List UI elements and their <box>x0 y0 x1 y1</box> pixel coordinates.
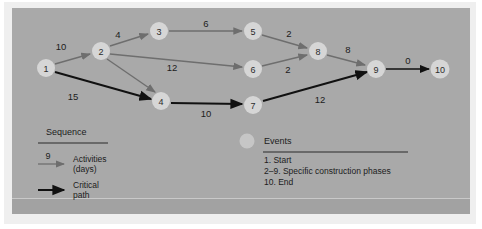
legend-critical-label-line2: path <box>73 190 90 200</box>
edge-label-3-5: 6 <box>203 18 208 29</box>
diagram-root: 1 2 3 4 5 6 7 8 9 10 10 15 4 12 6 10 2 2… <box>0 0 482 229</box>
legend-sequence-title: Sequence <box>46 127 87 137</box>
node-10-label: 10 <box>435 65 445 75</box>
edge-8-9 <box>327 55 365 65</box>
edge-label-2-3: 4 <box>115 29 120 40</box>
edge-5-8 <box>262 35 307 48</box>
event-node-icon <box>240 134 255 149</box>
edge-label-1-2: 10 <box>56 41 67 52</box>
node-9-label: 9 <box>373 65 378 75</box>
legend-activities-label-line1: Activities <box>73 154 107 164</box>
legend-events-item-3: 10. End <box>264 177 294 187</box>
legend-events-item-1: 1. Start <box>264 155 292 165</box>
edge-1-2 <box>55 54 90 64</box>
legend-events: Events 1. Start 2–9. Specific constructi… <box>240 134 409 188</box>
legend-sequence: Sequence 9 Activities (days) Critical pa… <box>38 127 108 200</box>
node-1-label: 1 <box>43 64 48 74</box>
edge-label-9-10: 0 <box>405 55 410 66</box>
edge-label-6-8: 2 <box>285 64 290 75</box>
legend-activities-label-line2: (days) <box>73 164 97 174</box>
node-2-label: 2 <box>98 47 103 57</box>
edge-label-2-6: 12 <box>167 62 178 73</box>
node-7-label: 7 <box>250 101 255 111</box>
edge-4-7 <box>171 103 242 104</box>
legend-events-title: Events <box>264 136 292 146</box>
edge-label-8-9: 8 <box>345 44 350 55</box>
edge-label-5-8: 2 <box>286 28 291 39</box>
legend-activities-number: 9 <box>45 151 50 161</box>
node-6-label: 6 <box>250 65 255 75</box>
edge-2-4 <box>107 59 155 92</box>
edge-label-1-4: 15 <box>68 91 79 102</box>
edge-label-4-7: 10 <box>201 108 212 119</box>
node-4-label: 4 <box>158 97 163 107</box>
network-diagram-canvas: 1 2 3 4 5 6 7 8 9 10 10 15 4 12 6 10 2 2… <box>0 0 482 229</box>
node-8-label: 8 <box>315 47 320 57</box>
legend-events-item-2: 2–9. Specific construction phases <box>264 166 391 176</box>
nodes-layer: 1 2 3 4 5 6 7 8 9 10 <box>37 22 450 114</box>
edge-label-7-9: 12 <box>315 94 326 105</box>
node-5-label: 5 <box>250 27 255 37</box>
legend-critical-label-line1: Critical <box>73 180 99 190</box>
node-3-label: 3 <box>156 27 161 37</box>
